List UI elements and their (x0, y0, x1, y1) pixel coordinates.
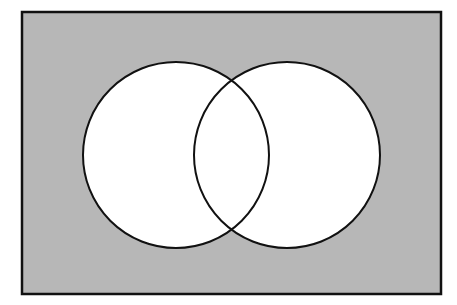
venn-diagram (0, 0, 457, 305)
venn-diagram-svg (0, 0, 457, 305)
